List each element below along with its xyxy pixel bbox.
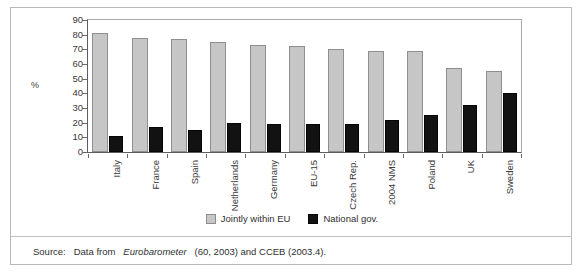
bars-layer <box>88 20 521 152</box>
x-tick-label: Germany <box>269 160 279 199</box>
bar-national-gov <box>188 130 202 152</box>
y-tick-label: 0 <box>57 147 83 157</box>
bar-national-gov <box>345 124 359 152</box>
y-tick-label: 20 <box>57 118 83 128</box>
y-tick-label: 70 <box>57 44 83 54</box>
x-tick-label: Czech Rep. <box>348 160 358 210</box>
y-tick-label: 10 <box>57 132 83 142</box>
x-tick-mark <box>127 154 128 158</box>
x-tick-mark <box>88 154 89 158</box>
y-tick-label: 40 <box>57 88 83 98</box>
legend-entry: Jointly within EU <box>206 213 291 224</box>
x-tick-mark <box>482 154 483 158</box>
x-label-slot: France <box>151 160 152 218</box>
bar-group <box>328 20 359 152</box>
x-tick-label: Spain <box>190 160 200 184</box>
bar-group <box>132 20 163 152</box>
bar-national-gov <box>267 124 281 152</box>
bar-jointly-within-eu <box>210 42 226 152</box>
source-prefix: Source: <box>33 246 66 257</box>
x-tick-mark <box>364 154 365 158</box>
x-label-slot: Netherlands <box>230 160 231 218</box>
bar-jointly-within-eu <box>289 46 305 152</box>
x-tick-label: UK <box>466 160 476 173</box>
x-tick-label: Netherlands <box>230 160 240 211</box>
y-axis-title: % <box>31 80 39 90</box>
bar-national-gov <box>424 115 438 152</box>
bar-group <box>289 20 320 152</box>
bar-jointly-within-eu <box>132 38 148 152</box>
bar-group <box>92 20 123 152</box>
bar-jointly-within-eu <box>92 33 108 152</box>
bar-group <box>368 20 399 152</box>
x-tick-mark <box>167 154 168 158</box>
x-tick-label: EU-15 <box>309 160 319 187</box>
bar-group <box>171 20 202 152</box>
bar-group <box>210 20 241 152</box>
bar-group <box>250 20 281 152</box>
bar-group <box>407 20 438 152</box>
source-note: Source: Data from Eurobarometer (60, 200… <box>33 246 326 257</box>
x-label-slot: Spain <box>190 160 191 218</box>
bar-jointly-within-eu <box>368 51 384 152</box>
x-axis-tick-labels: ItalyFranceSpainNetherlandsGermanyEU-15C… <box>88 160 528 220</box>
source-text-after: (60, 2003) and CCEB (2003.4). <box>195 246 327 257</box>
x-label-slot: Czech Rep. <box>348 160 349 218</box>
x-tick-mark <box>206 154 207 158</box>
x-tick-mark <box>285 154 286 158</box>
x-label-slot: EU-15 <box>309 160 310 218</box>
x-tick-mark <box>245 154 246 158</box>
gray-square-icon <box>206 214 216 224</box>
x-label-slot: UK <box>466 160 467 218</box>
x-label-slot: Germany <box>269 160 270 218</box>
y-tick-label: 60 <box>57 59 83 69</box>
bar-jointly-within-eu <box>250 45 266 152</box>
y-axis-tick-labels: 9080706050403020100 <box>57 8 83 168</box>
legend-entry: National gov. <box>308 213 378 224</box>
x-tick-label: Italy <box>112 160 122 177</box>
divider <box>11 236 571 237</box>
x-tick-mark <box>442 154 443 158</box>
y-tick-label: 90 <box>57 15 83 25</box>
bar-jointly-within-eu <box>486 71 502 152</box>
x-label-slot: 2004 NMS <box>387 160 388 218</box>
x-tick-label: Poland <box>427 160 437 190</box>
bar-national-gov <box>306 124 320 152</box>
bar-national-gov <box>227 123 241 152</box>
y-tick-label: 30 <box>57 103 83 113</box>
source-text-before: Data from <box>74 246 116 257</box>
bar-jointly-within-eu <box>407 51 423 152</box>
x-tick-label: 2004 NMS <box>387 160 397 205</box>
bar-jointly-within-eu <box>171 39 187 152</box>
legend-label: Jointly within EU <box>221 213 291 224</box>
bar-national-gov <box>149 127 163 152</box>
x-tick-label: France <box>151 160 161 190</box>
x-tick-label: Sweden <box>505 160 515 194</box>
y-tick-label: 50 <box>57 74 83 84</box>
x-label-slot: Italy <box>112 160 113 218</box>
bar-jointly-within-eu <box>328 49 344 152</box>
bar-chart: % 9080706050403020100 ItalyFranceSpainNe… <box>11 8 573 230</box>
bar-jointly-within-eu <box>446 68 462 152</box>
bar-national-gov <box>503 93 517 152</box>
bar-group <box>446 20 477 152</box>
bar-national-gov <box>109 136 123 152</box>
source-publication-title: Eurobarometer <box>123 246 186 257</box>
chart-legend: Jointly within EUNational gov. <box>11 213 573 224</box>
legend-label: National gov. <box>323 213 378 224</box>
figure-container: % 9080706050403020100 ItalyFranceSpainNe… <box>10 7 572 265</box>
bar-national-gov <box>463 105 477 152</box>
x-label-slot: Sweden <box>505 160 506 218</box>
x-tick-mark <box>403 154 404 158</box>
x-label-slot: Poland <box>427 160 428 218</box>
bar-national-gov <box>385 120 399 152</box>
x-tick-mark <box>521 154 522 158</box>
bar-group <box>486 20 517 152</box>
black-square-icon <box>308 214 318 224</box>
x-tick-mark <box>324 154 325 158</box>
y-tick-label: 80 <box>57 30 83 40</box>
